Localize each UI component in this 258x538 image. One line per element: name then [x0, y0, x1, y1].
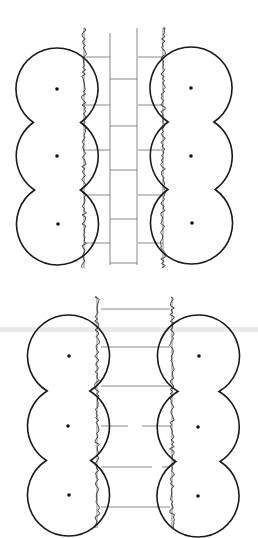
- tree-trunk-icon: [196, 494, 200, 498]
- lower-plan: [27, 297, 239, 537]
- tree-trunk-icon: [67, 354, 71, 358]
- tree-trunk-icon: [189, 86, 193, 90]
- tree-trunk-icon: [196, 425, 200, 429]
- tree-trunk-icon: [56, 222, 60, 226]
- allee-plan-diagram: [0, 0, 258, 538]
- upper-plan: [16, 28, 233, 268]
- tree-trunk-icon: [66, 424, 70, 428]
- tree-trunk-icon: [190, 221, 194, 225]
- tree-trunk-icon: [67, 493, 71, 497]
- tree-trunk-icon: [55, 154, 59, 158]
- tree-trunk-icon: [55, 87, 59, 91]
- tree-trunk-icon: [189, 154, 193, 158]
- tree-trunk-icon: [197, 354, 201, 358]
